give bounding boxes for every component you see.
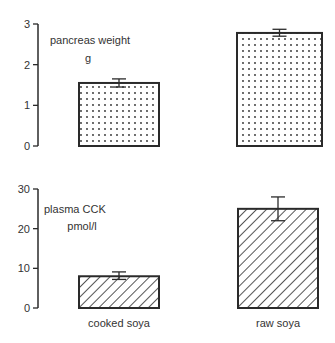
y-tick-label: 0: [24, 302, 30, 314]
bar-raw-soya: [237, 33, 322, 146]
category-label: cooked soya: [88, 317, 151, 329]
bar-raw-soya: [238, 209, 318, 308]
y-tick-label: 0: [24, 140, 30, 152]
y-tick-label: 3: [24, 18, 30, 30]
panel-label-unit: g: [85, 52, 91, 64]
pancreas-weight-panel: 0123pancreas weightg: [24, 18, 322, 152]
y-tick-label: 20: [18, 223, 30, 235]
y-tick-label: 1: [24, 99, 30, 111]
bar-cooked-soya: [79, 276, 159, 308]
y-tick-label: 10: [18, 262, 30, 274]
chart-figure: 0123pancreas weightg 0102030plasma CCKpm…: [0, 0, 335, 343]
category-label: raw soya: [256, 317, 301, 329]
panel-label-measure: plasma CCK: [44, 203, 106, 215]
panel-label-unit: pmol/l: [67, 220, 96, 232]
panel-label-measure: pancreas weight: [50, 34, 130, 46]
y-tick-label: 2: [24, 59, 30, 71]
category-labels: cooked soyaraw soya: [88, 317, 301, 329]
plasma-cck-panel: 0102030plasma CCKpmol/l: [18, 183, 318, 314]
bar-cooked-soya: [79, 83, 159, 146]
y-tick-label: 30: [18, 183, 30, 195]
